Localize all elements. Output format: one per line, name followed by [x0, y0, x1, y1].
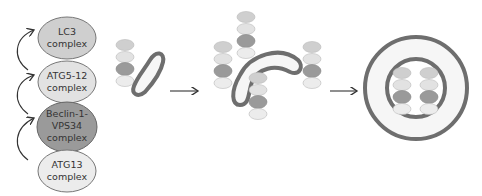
- stage-autophagosome: [365, 37, 467, 139]
- complex-atg5-12: ATG5-12 complex: [38, 61, 96, 103]
- atg5-12-label-1: ATG5-12: [47, 70, 88, 81]
- recruitment-arrows: [17, 30, 34, 160]
- atg13-label-1: ATG13: [51, 159, 82, 170]
- beclin-label-3: complex: [47, 132, 88, 143]
- complex-lc3: LC3 complex: [38, 17, 96, 59]
- complex-atg13: ATG13 complex: [38, 150, 96, 192]
- beclin-label-2: VPS34: [52, 120, 82, 131]
- stage-nucleation: [116, 40, 163, 95]
- autophagy-diagram: LC3 complex ATG5-12 complex Beclin-1- VP…: [0, 0, 482, 196]
- complex-beclin-vps34: Beclin-1- VPS34 complex: [37, 102, 97, 152]
- stage-elongation: [214, 12, 321, 120]
- atg5-12-label-2: complex: [47, 82, 88, 93]
- curved-arrow-icon: [17, 75, 34, 114]
- curved-arrow-icon: [17, 30, 34, 70]
- atg13-label-2: complex: [47, 171, 88, 182]
- lc3-label-2: complex: [47, 38, 88, 49]
- curved-arrow-icon: [17, 118, 34, 160]
- lc3-label-1: LC3: [58, 26, 76, 37]
- beclin-label-1: Beclin-1-: [46, 108, 88, 119]
